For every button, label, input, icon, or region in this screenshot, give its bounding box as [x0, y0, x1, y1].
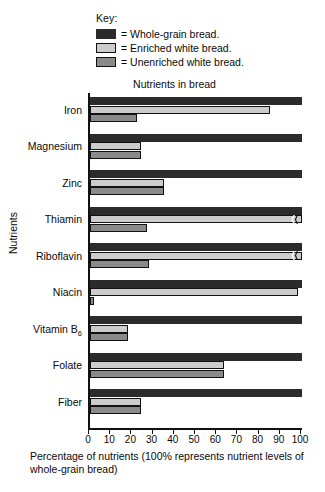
legend-label-enriched-white: = Enriched white bread. — [121, 42, 232, 54]
y-axis-category-labels: IronMagnesiumZincThiaminRiboflavinNiacin… — [0, 93, 86, 428]
bar — [90, 142, 141, 150]
bar — [90, 224, 147, 232]
y-axis-label-folate: Folate — [53, 360, 82, 371]
y-axis-label-zinc: Zinc — [62, 178, 82, 189]
y-axis-label-fiber: Fiber — [58, 397, 82, 408]
bar — [90, 252, 302, 260]
chart-legend: Key: = Whole-grain bread. = Enriched whi… — [96, 12, 316, 69]
legend-text-0: Whole-grain bread. — [130, 28, 219, 40]
bar — [90, 207, 302, 215]
x-axis-line-inner — [88, 429, 302, 430]
legend-item-enriched-white: = Enriched white bread. — [96, 41, 316, 54]
bar — [90, 106, 270, 114]
bar — [90, 179, 164, 187]
legend-swatch-whole-grain — [96, 29, 116, 39]
bar — [90, 398, 141, 406]
legend-label-unenriched-white: = Unenriched white bread. — [121, 56, 244, 68]
bar — [90, 134, 302, 142]
legend-equals-2: = — [121, 56, 127, 68]
bar — [90, 170, 302, 178]
bar — [90, 215, 302, 223]
bar — [90, 243, 302, 251]
bar — [90, 151, 141, 159]
legend-text-2: Unenriched white bread. — [130, 56, 244, 68]
bar — [90, 260, 149, 268]
bar-group-niacin — [90, 280, 302, 305]
x-axis-tick-label: 100 — [288, 434, 312, 446]
bar — [90, 297, 94, 305]
y-axis-label-niacin: Niacin — [53, 287, 82, 298]
legend-item-unenriched-white: = Unenriched white bread. — [96, 55, 316, 68]
bar — [90, 325, 128, 333]
legend-label-whole-grain: = Whole-grain bread. — [121, 28, 219, 40]
bar — [90, 361, 224, 369]
bar — [90, 288, 298, 296]
bar — [90, 97, 302, 105]
chart-plot-area: Nutrients IronMagnesiumZincThiaminRibofl… — [0, 93, 325, 428]
bar — [90, 406, 141, 414]
bar-group-magnesium — [90, 134, 302, 159]
bar-group-thiamin — [90, 207, 302, 232]
bar — [90, 280, 302, 288]
y-axis-label-vitamin-b6: Vitamin B6 — [33, 324, 82, 339]
bar — [90, 316, 302, 324]
bar — [90, 389, 302, 397]
y-axis-label-thiamin: Thiamin — [45, 214, 82, 225]
bar-group-folate — [90, 353, 302, 378]
bar-group-iron — [90, 97, 302, 122]
x-axis-title: Percentage of nutrients (100% represents… — [30, 450, 315, 475]
legend-swatch-enriched-white — [96, 43, 116, 53]
y-axis-label-magnesium: Magnesium — [28, 141, 82, 152]
y-axis-label-iron: Iron — [64, 105, 82, 116]
bar — [90, 370, 224, 378]
legend-text-1: Enriched white bread. — [130, 42, 232, 54]
bar-group-riboflavin — [90, 243, 302, 268]
legend-title: Key: — [96, 12, 316, 25]
chart-title: Nutrients in bread — [0, 78, 325, 90]
legend-equals-1: = — [121, 42, 127, 54]
bar — [90, 353, 302, 361]
bars-container — [88, 93, 302, 428]
bar — [90, 114, 137, 122]
bar — [90, 187, 164, 195]
legend-swatch-unenriched-white — [96, 57, 116, 67]
bar-group-fiber — [90, 389, 302, 414]
legend-item-whole-grain: = Whole-grain bread. — [96, 27, 316, 40]
legend-equals-0: = — [121, 28, 127, 40]
bar-group-vitamin-b6 — [90, 316, 302, 341]
bar — [90, 333, 128, 341]
y-axis-label-riboflavin: Riboflavin — [36, 251, 82, 262]
bar-group-zinc — [90, 170, 302, 195]
